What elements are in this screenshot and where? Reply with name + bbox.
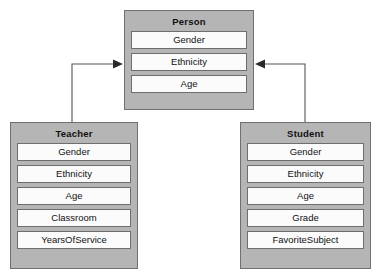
class-box-teacher[interactable]: Teacher Gender Ethnicity Age Classroom Y… [10,122,138,269]
attribute-row[interactable]: YearsOfService [17,231,131,249]
class-box-student[interactable]: Student Gender Ethnicity Age Grade Favor… [240,122,371,269]
class-title-person: Person [131,15,247,31]
attribute-row[interactable]: Ethnicity [17,165,131,183]
class-title-student: Student [247,127,364,143]
attribute-row[interactable]: Gender [17,143,131,161]
attribute-row[interactable]: FavoriteSubject [247,231,364,249]
attribute-row[interactable]: Gender [247,143,364,161]
attribute-list-person: Gender Ethnicity Age [131,31,247,93]
attribute-row[interactable]: Ethnicity [247,165,364,183]
arrowhead-icon [255,60,265,69]
class-box-person[interactable]: Person Gender Ethnicity Age [124,10,254,110]
attribute-row[interactable]: Age [247,187,364,205]
attribute-row[interactable]: Ethnicity [131,53,247,71]
attribute-row[interactable]: Classroom [17,209,131,227]
class-title-teacher: Teacher [17,127,131,143]
attribute-list-student: Gender Ethnicity Age Grade FavoriteSubje… [247,143,364,249]
attribute-row[interactable]: Gender [131,31,247,49]
class-diagram-canvas: Person Gender Ethnicity Age Teacher Gend… [0,0,379,279]
attribute-row[interactable]: Age [131,75,247,93]
connector-student-to-person [255,60,305,123]
arrowhead-icon [113,60,123,69]
connector-teacher-to-person [72,60,123,123]
attribute-row[interactable]: Grade [247,209,364,227]
attribute-list-teacher: Gender Ethnicity Age Classroom YearsOfSe… [17,143,131,249]
attribute-row[interactable]: Age [17,187,131,205]
